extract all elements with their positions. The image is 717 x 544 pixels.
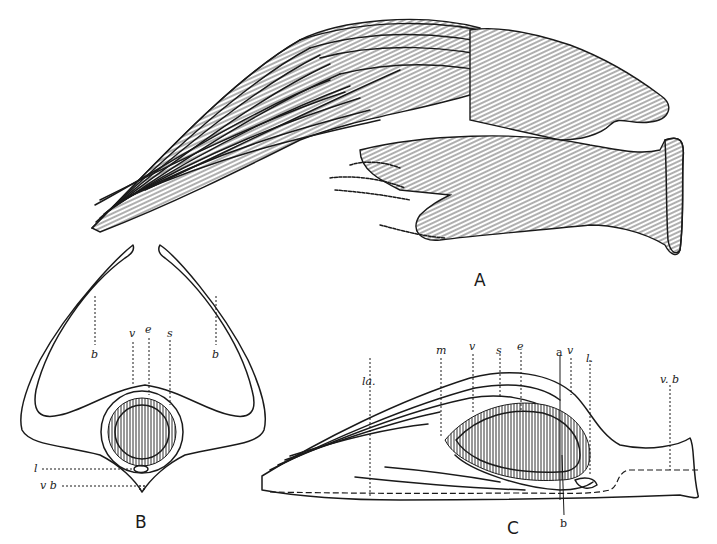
c-hatched-ring	[445, 403, 590, 480]
b-lumen-l	[134, 466, 148, 473]
b-label-b-left: b	[91, 348, 98, 361]
lower-body	[360, 136, 683, 255]
panel-label-b: B	[135, 512, 147, 532]
c-label-l: l.	[586, 352, 593, 365]
c-label-m: m	[436, 344, 446, 357]
c-label-vb: v. b	[660, 373, 679, 386]
c-label-s: s	[496, 344, 502, 357]
c-label-a: a	[556, 346, 563, 359]
b-label-s: s	[167, 327, 173, 340]
panel-label-c: C	[507, 518, 519, 538]
panel-b: b b v e s l v b B	[21, 245, 265, 532]
b-hatched-ring	[108, 398, 176, 466]
b-label-l: l	[34, 462, 38, 475]
upper-body	[470, 29, 669, 140]
scientific-figure: A b b v e s l v b B	[0, 0, 717, 544]
b-label-b-right: b	[212, 348, 219, 361]
panel-a: A	[92, 19, 683, 290]
c-label-v1: v	[469, 340, 476, 353]
c-label-la: la.	[362, 375, 376, 388]
panel-c: la. m v s e a v l. v. b b C	[262, 340, 698, 538]
panel-label-a: A	[474, 270, 486, 290]
c-label-v2: v	[567, 344, 574, 357]
b-label-e: e	[145, 323, 152, 336]
c-label-e: e	[517, 340, 524, 353]
b-label-v: v	[129, 327, 136, 340]
c-canal	[270, 470, 698, 493]
c-label-b: b	[560, 517, 567, 530]
b-label-vb: v b	[40, 479, 57, 492]
